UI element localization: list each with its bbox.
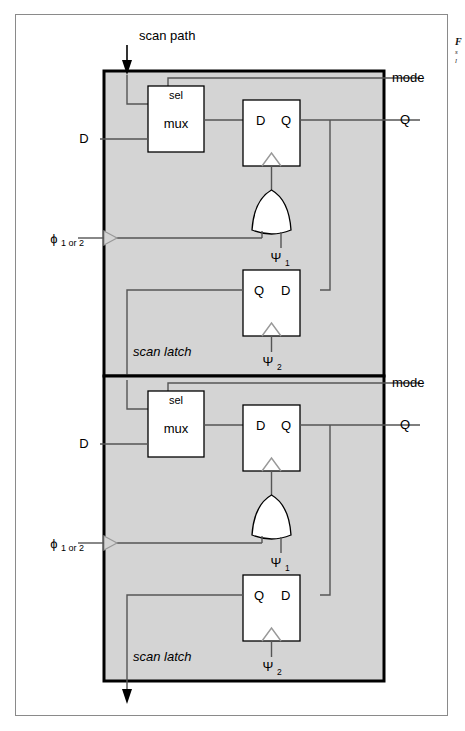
mux-sel-label: sel	[169, 89, 183, 101]
phi-input-subscript: 1 or 2	[61, 238, 84, 248]
margin-caption-line1: F	[455, 36, 465, 48]
mode-label-2: mode	[392, 375, 425, 390]
dff-box	[243, 100, 300, 166]
psi2-label: Ψ	[263, 354, 274, 369]
margin-caption-line3: l	[455, 57, 465, 66]
psi2-subscript: 2	[277, 362, 282, 372]
mode-label: mode	[392, 70, 425, 85]
phi-input-label-2: ϕ	[50, 536, 57, 551]
scan-latch-q-label-2: Q	[254, 588, 264, 603]
margin-caption: F s l	[455, 36, 465, 65]
scan-latch-diagram: scan path mode sel mux D D Q Q	[0, 0, 465, 731]
scan-latch-q-label: Q	[254, 283, 264, 298]
q-output-label: Q	[400, 112, 410, 127]
psi2-subscript-2: 2	[277, 667, 282, 677]
psi1-subscript-2: 1	[285, 563, 290, 573]
figure-canvas: scan path mode sel mux D D Q Q	[0, 0, 465, 731]
d-input-label-2: D	[79, 436, 88, 451]
dff-d-label-2: D	[256, 418, 265, 433]
scan-latch-text-2: scan latch	[133, 649, 192, 664]
scan-latch-block-1: scan path mode sel mux D D Q Q	[50, 28, 424, 404]
psi1-label: Ψ	[271, 250, 282, 265]
scan-path-label: scan path	[139, 28, 195, 43]
scan-latch-d-label: D	[281, 283, 290, 298]
mux-label-2: mux	[164, 421, 189, 436]
dff-q-label: Q	[281, 113, 291, 128]
dff-box-2	[243, 405, 300, 471]
phi-input-subscript-2: 1 or 2	[61, 543, 84, 553]
mux-label: mux	[164, 116, 189, 131]
phi-input-label: ϕ	[50, 231, 57, 246]
psi1-subscript: 1	[285, 258, 290, 268]
d-input-label: D	[79, 131, 88, 146]
scan-latch-box-2	[243, 575, 300, 641]
scan-latch-block-2: mode sel mux D D Q Q Ψ 1 ϕ 1 or 2 Q D	[50, 375, 424, 704]
mux-sel-label-2: sel	[169, 394, 183, 406]
margin-caption-line2: s	[455, 48, 465, 57]
scan-latch-box	[243, 270, 300, 336]
psi1-label-2: Ψ	[271, 555, 282, 570]
dff-d-label: D	[256, 113, 265, 128]
scan-latch-text: scan latch	[133, 344, 192, 359]
psi2-label-2: Ψ	[263, 659, 274, 674]
q-output-label-2: Q	[400, 417, 410, 432]
scan-latch-d-label-2: D	[281, 588, 290, 603]
dff-q-label-2: Q	[281, 418, 291, 433]
